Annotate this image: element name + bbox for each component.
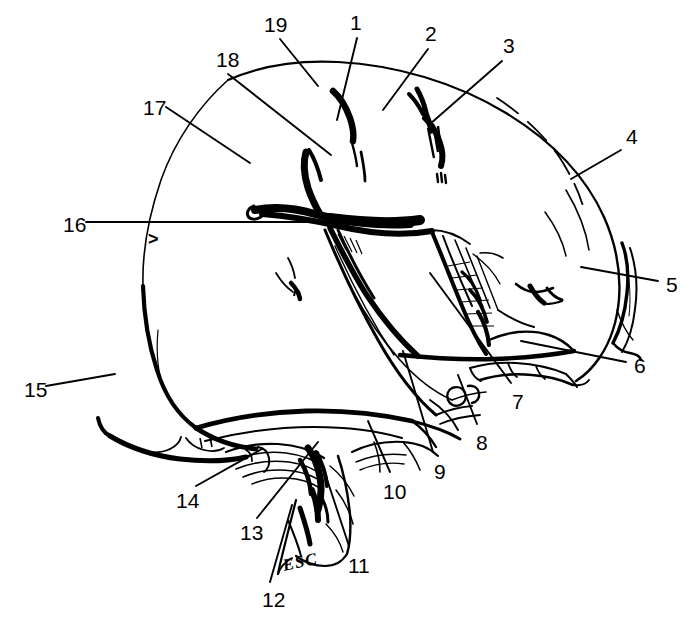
label-number-18: 18 <box>216 49 239 70</box>
label-number-9: 9 <box>434 461 446 482</box>
leader-line-6 <box>521 341 626 362</box>
leader-line-17 <box>166 107 250 163</box>
sphenoid-wing-complex <box>247 150 432 356</box>
caret-marker-icon: > <box>148 230 159 248</box>
label-number-17: 17 <box>143 97 166 118</box>
label-number-14: 14 <box>176 490 199 511</box>
label-number-2: 2 <box>425 23 437 44</box>
leader-line-15 <box>46 374 115 386</box>
leader-line-18 <box>228 74 331 155</box>
skull-illustration <box>0 0 686 617</box>
leader-line-3 <box>430 61 502 124</box>
leader-line-9 <box>403 351 433 452</box>
leader-line-4 <box>571 150 621 179</box>
label-number-8: 8 <box>476 432 488 453</box>
greater-wing-hatched-mass <box>431 230 500 354</box>
label-number-7: 7 <box>512 391 524 412</box>
skull-diagram-figure: 12345678910111213141516171819 ESC > <box>0 0 686 617</box>
label-number-16: 16 <box>63 214 86 235</box>
label-number-13: 13 <box>240 522 263 543</box>
label-number-11: 11 <box>348 555 370 576</box>
label-number-6: 6 <box>634 355 646 376</box>
label-number-19: 19 <box>264 14 287 35</box>
label-number-10: 10 <box>383 481 406 502</box>
label-number-1: 1 <box>350 12 362 33</box>
label-number-12: 12 <box>262 589 285 610</box>
label-number-3: 3 <box>503 35 515 56</box>
cranial-vault-outline <box>143 62 620 449</box>
leader-line-14 <box>196 449 262 486</box>
label-number-5: 5 <box>666 274 678 295</box>
label-number-4: 4 <box>626 126 638 147</box>
label-number-15: 15 <box>24 379 47 400</box>
